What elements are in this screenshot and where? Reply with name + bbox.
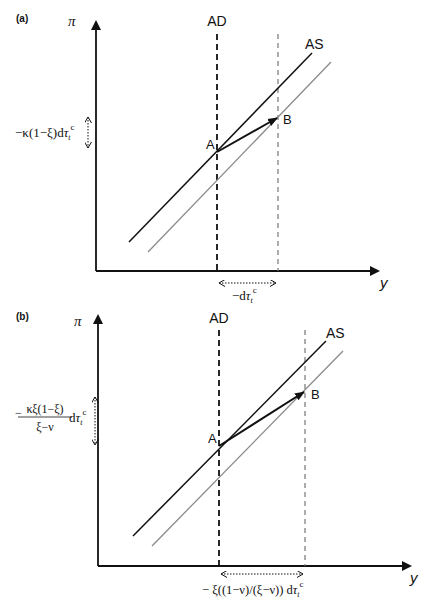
- as-shifted-curve: [152, 351, 343, 546]
- y-change-suffix: dτtc: [69, 407, 86, 427]
- x-change-label: −dτtc: [232, 285, 257, 305]
- movement-arrow: [219, 392, 304, 446]
- panel-a: (a) π y AD AS A B −κ(1−ξ)dτtc −dτtc: [15, 13, 389, 305]
- y-change-denominator: ξ−ν: [36, 420, 54, 434]
- panel-label: (b): [16, 311, 29, 322]
- x-change-label: − ξ((1−ν)/(ξ−ν)) dτtc: [202, 579, 304, 599]
- y-change-label: − κξ(1−ξ) ξ−ν dτtc: [15, 402, 86, 434]
- point-b-label: B: [311, 387, 320, 402]
- as-label: AS: [305, 36, 324, 52]
- x-axis-label: y: [379, 274, 389, 291]
- y-axis-label: π: [68, 13, 76, 29]
- panel-label: (a): [16, 13, 28, 24]
- as-shifted-curve: [148, 62, 331, 252]
- point-a-label: A: [206, 137, 215, 152]
- point-b-label: B: [283, 112, 292, 127]
- y-change-numerator: κξ(1−ξ): [26, 402, 63, 416]
- panel-b: (b) π y AD AS A B − κξ(1−ξ) ξ−ν dτtc: [15, 310, 419, 599]
- y-axis-label: π: [74, 313, 82, 329]
- point-a-label: A: [208, 431, 217, 446]
- y-change-label: −κ(1−ξ)dτtc: [15, 122, 75, 142]
- ad-label: AD: [207, 13, 226, 29]
- ad-label: AD: [209, 310, 228, 326]
- svg-text:−: −: [15, 406, 22, 420]
- movement-arrow: [217, 118, 277, 152]
- as-curve: [129, 53, 312, 242]
- x-axis-label: y: [409, 569, 419, 586]
- as-label: AS: [326, 325, 345, 341]
- diagram-canvas: (a) π y AD AS A B −κ(1−ξ)dτtc −dτtc (b): [0, 0, 432, 606]
